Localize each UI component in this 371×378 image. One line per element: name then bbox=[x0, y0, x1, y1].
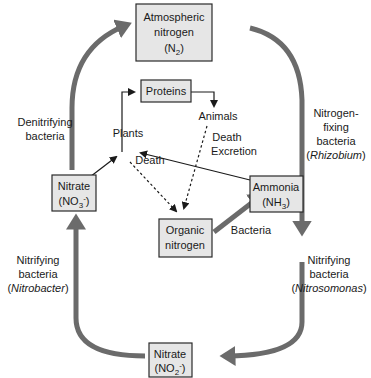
denitrification-arrow bbox=[72, 26, 124, 170]
svg-text:Atmospheric: Atmospheric bbox=[143, 11, 205, 23]
plants-to-proteins-arrow bbox=[122, 92, 134, 152]
plants-death-arrow bbox=[130, 162, 176, 211]
excretion-label: Excretion bbox=[211, 145, 257, 157]
denitrifying-label-2: bacteria bbox=[25, 130, 65, 142]
svg-text:Ammonia: Ammonia bbox=[253, 181, 300, 193]
svg-text:Organic: Organic bbox=[166, 224, 205, 236]
bacteria-label: Bacteria bbox=[231, 224, 272, 236]
ammonia-node: Ammonia (NH3) bbox=[250, 176, 303, 212]
nitrosomonas-label: (Nitrosomonas) bbox=[291, 282, 366, 294]
nitrifying-right-label-2: bacteria bbox=[309, 268, 349, 280]
nitrosomonas-arrow bbox=[228, 262, 302, 356]
nitrogen-fixing-label-3: bacteria bbox=[316, 135, 356, 147]
animals-death-label: Death bbox=[212, 131, 241, 143]
nitrifying-right-label-1: Nitrifying bbox=[308, 254, 351, 266]
nitrogen-fixing-label-1: Nitrogen- bbox=[313, 107, 359, 119]
rhizobium-label: (Rhizobium) bbox=[306, 149, 365, 161]
nitrogen-cycle-diagram: Atmospheric nitrogen (N2) Proteins Nitra… bbox=[0, 0, 371, 378]
nitrobacter-arrow bbox=[76, 222, 145, 356]
nitrifying-left-label-2: bacteria bbox=[18, 268, 58, 280]
nitrogen-fixing-label-2: fixing bbox=[323, 121, 349, 133]
svg-text:nitrogen: nitrogen bbox=[154, 26, 194, 38]
svg-text:Nitrate: Nitrate bbox=[58, 180, 90, 192]
nitrobacter-label: (Nitrobacter) bbox=[7, 282, 68, 294]
proteins-to-animals-arrow bbox=[190, 92, 214, 106]
plants-death-label: Death bbox=[135, 154, 164, 166]
svg-text:Proteins: Proteins bbox=[146, 85, 187, 97]
proteins-node: Proteins bbox=[141, 80, 191, 102]
svg-text:Nitrate: Nitrate bbox=[154, 348, 186, 360]
plants-label: Plants bbox=[113, 127, 144, 139]
animals-label: Animals bbox=[198, 110, 238, 122]
svg-text:nitrogen: nitrogen bbox=[165, 239, 205, 251]
nitrate-no2-node: Nitrate (NO2-) bbox=[149, 343, 192, 377]
denitrifying-label-1: Denitrifying bbox=[17, 116, 72, 128]
nitrifying-left-label-1: Nitrifying bbox=[17, 254, 60, 266]
atmospheric-nitrogen-node: Atmospheric nitrogen (N2) bbox=[136, 4, 212, 61]
organic-nitrogen-node: Organic nitrogen bbox=[159, 219, 212, 257]
nitrate-no3-node: Nitrate (NO3-) bbox=[52, 175, 96, 211]
